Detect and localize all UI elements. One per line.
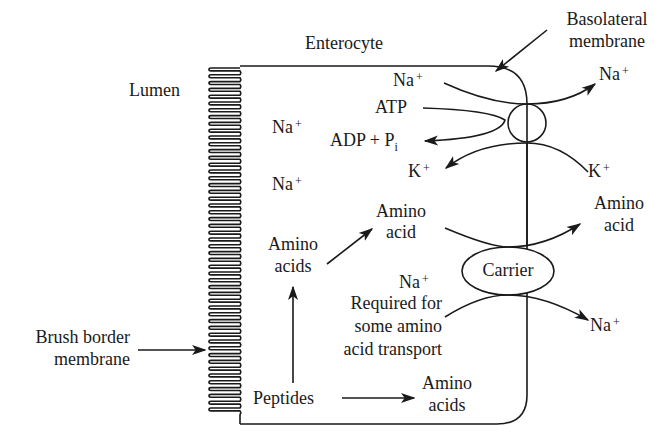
pump-na-in-label: Na+ <box>393 70 423 91</box>
lumen-label: Lumen <box>129 80 180 101</box>
diagram-graphics <box>0 0 661 438</box>
lumen-na-label-2: Na+ <box>272 174 302 195</box>
enterocyte-label: Enterocyte <box>305 33 383 54</box>
brush-border-microvilli <box>209 68 241 424</box>
carrier-na-in-label: Na+ <box>399 272 429 293</box>
brush-border-label-line1: Brush border <box>0 327 130 348</box>
peptides-label: Peptides <box>253 388 314 409</box>
carrier-na-out-label: Na+ <box>590 315 620 336</box>
na-note-line2: some amino <box>300 316 442 337</box>
adp-pi-label: ADP + Pi <box>330 130 398 158</box>
na-note-line1: Required for <box>300 293 442 314</box>
enterocyte-transport-diagram: Enterocyte Lumen Basolateral membrane Na… <box>0 0 661 438</box>
basolateral-label-line2: membrane <box>557 31 657 52</box>
amino-acids-up-line1: Amino <box>258 234 328 255</box>
amino-acid-out-line2: acid <box>584 215 654 236</box>
amino-acids-right-line2: acids <box>412 395 482 416</box>
brush-border-label-line2: membrane <box>0 349 130 370</box>
lumen-na-label-1: Na+ <box>272 117 302 138</box>
amino-acid-out-line1: Amino <box>584 193 654 214</box>
amino-acid-in-line2: acid <box>366 222 436 243</box>
pump-k-out-label: K+ <box>588 161 610 182</box>
amino-acids-up-line2: acids <box>258 256 328 277</box>
na-note-line3: acid transport <box>300 339 442 360</box>
amino-acid-in-line1: Amino <box>366 201 436 222</box>
carrier-label: Carrier <box>463 260 553 281</box>
pump-k-in-label: K+ <box>408 161 430 182</box>
atp-label: ATP <box>375 97 407 118</box>
amino-acids-right-line1: Amino <box>412 373 482 394</box>
basolateral-label-line1: Basolateral <box>557 9 657 30</box>
pump-na-out-label: Na+ <box>599 64 629 85</box>
